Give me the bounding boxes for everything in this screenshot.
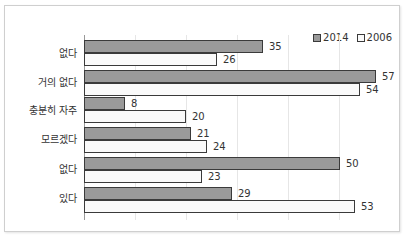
gridline [288, 35, 289, 220]
bar-2006-cat3 [84, 140, 207, 153]
data-label-2006-cat0: 26 [223, 53, 236, 66]
bar-2006-cat2 [84, 110, 186, 123]
data-label-2014-cat1: 57 [382, 70, 395, 83]
category-label: 없다 [59, 163, 77, 177]
plot-area: 35 26 57 54 8 20 21 24 50 23 29 53 [84, 35, 390, 220]
bar-2014-cat4 [84, 157, 340, 170]
bar-2006-cat4 [84, 170, 202, 183]
bar-2006-cat5 [84, 200, 355, 213]
bar-2006-cat0 [84, 53, 217, 66]
data-label-2006-cat1: 54 [366, 83, 379, 96]
data-label-2014-cat5: 29 [238, 187, 251, 200]
bar-2014-cat2 [84, 97, 125, 110]
category-label: 거의 없다 [38, 76, 77, 90]
data-label-2014-cat4: 50 [346, 157, 359, 170]
bar-2014-cat0 [84, 40, 263, 53]
category-label: 충분히 자주 [29, 104, 77, 118]
data-label-2014-cat3: 21 [197, 127, 210, 140]
data-label-2006-cat3: 24 [213, 140, 226, 153]
bar-2014-cat3 [84, 127, 191, 140]
data-label-2006-cat2: 20 [192, 110, 205, 123]
data-label-2014-cat0: 35 [269, 40, 282, 53]
data-label-2006-cat4: 23 [208, 170, 221, 183]
gridline [339, 35, 340, 220]
bar-2006-cat1 [84, 83, 360, 96]
category-label: 모르겠다 [41, 133, 77, 147]
bar-2014-cat5 [84, 187, 232, 200]
data-label-2006-cat5: 53 [361, 200, 374, 213]
bar-2014-cat1 [84, 70, 376, 83]
category-label: 없다 [59, 47, 77, 61]
data-label-2014-cat2: 8 [131, 97, 137, 110]
category-label: 있다 [59, 192, 77, 206]
